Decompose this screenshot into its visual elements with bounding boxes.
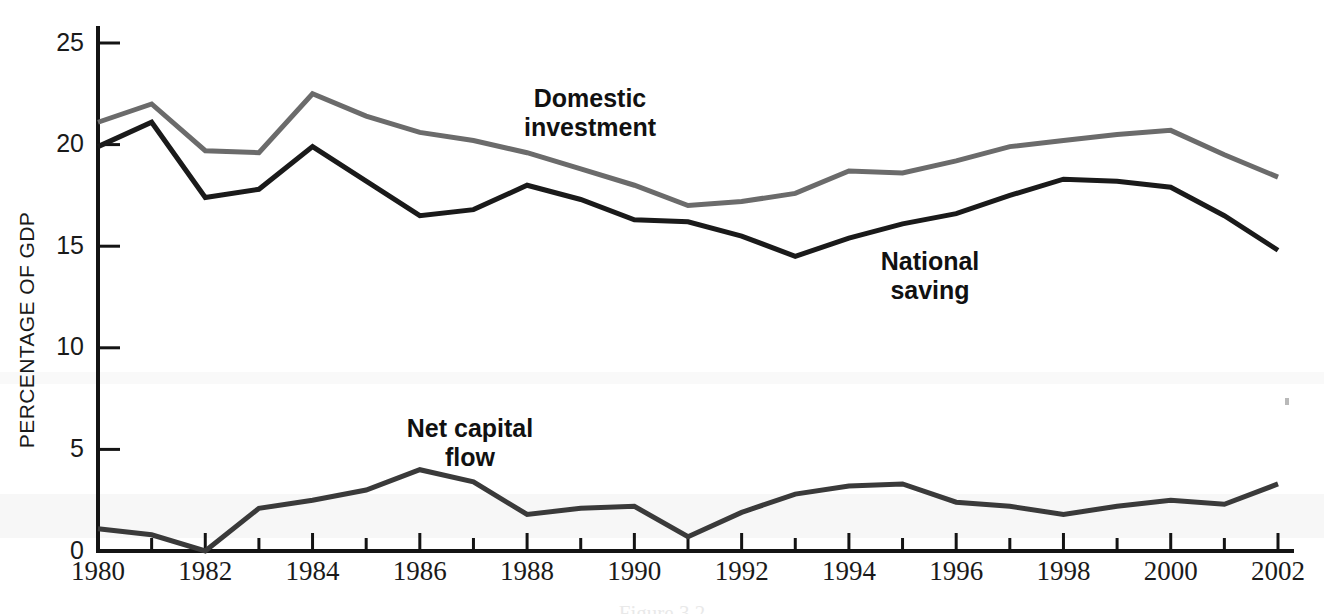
figure-container: 0510152025 19801982198419861988199019921… <box>0 0 1324 614</box>
series-line-net-capital-flow <box>98 470 1278 551</box>
x-tick-label-2002: 2002 <box>1251 556 1305 586</box>
series-line-national-saving <box>98 122 1278 256</box>
series-label-line: Net capital <box>407 414 533 442</box>
x-tick-group: 1980198219841986198819901992199419961998… <box>71 533 1305 586</box>
x-tick-label-1988: 1988 <box>500 556 554 586</box>
x-tick-label-1984: 1984 <box>286 556 341 586</box>
x-tick-label-2000: 2000 <box>1144 556 1198 586</box>
y-tick-label-10: 10 <box>56 332 84 360</box>
y-tick-label-25: 25 <box>56 28 84 56</box>
x-tick-label-1982: 1982 <box>178 556 232 586</box>
series-label-line: flow <box>445 443 496 471</box>
x-tick-label-1992: 1992 <box>715 556 769 586</box>
series-line-domestic-investment <box>98 94 1278 206</box>
series-label-national-saving: Nationalsaving <box>881 247 980 304</box>
y-tick-label-15: 15 <box>56 231 84 259</box>
line-chart: 0510152025 19801982198419861988199019921… <box>0 0 1324 614</box>
y-axis-title: PERCENTAGE OF GDP <box>15 212 38 448</box>
y-tick-label-5: 5 <box>70 434 84 462</box>
chart-axes <box>98 28 1292 551</box>
x-tick-label-1980: 1980 <box>71 556 125 586</box>
series-group <box>98 94 1278 551</box>
series-annotation-group: DomesticinvestmentNationalsavingNet capi… <box>407 84 980 471</box>
x-tick-label-1998: 1998 <box>1036 556 1090 586</box>
x-tick-label-1996: 1996 <box>929 556 983 586</box>
x-tick-label-1990: 1990 <box>607 556 661 586</box>
x-tick-label-1994: 1994 <box>822 556 877 586</box>
series-label-domestic-investment: Domesticinvestment <box>524 84 657 141</box>
series-label-net-capital-flow: Net capitalflow <box>407 414 533 471</box>
series-label-line: investment <box>524 113 657 141</box>
x-tick-label-1986: 1986 <box>393 556 447 586</box>
y-tick-label-20: 20 <box>56 129 84 157</box>
series-label-line: National <box>881 247 980 275</box>
series-label-line: saving <box>890 276 969 304</box>
y-tick-group: 0510152025 <box>56 28 120 564</box>
series-label-line: Domestic <box>534 84 647 112</box>
